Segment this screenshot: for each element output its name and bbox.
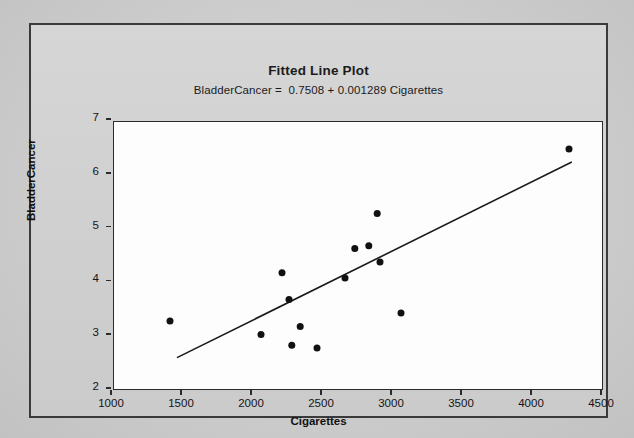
data-point xyxy=(377,258,384,265)
data-point xyxy=(374,210,381,217)
x-tick-label: 1000 xyxy=(87,397,135,409)
x-tick-label: 3500 xyxy=(437,397,485,409)
chart-title: Fitted Line Plot xyxy=(31,63,606,78)
x-tick-label: 4500 xyxy=(577,397,625,409)
data-point xyxy=(167,318,174,325)
data-point xyxy=(398,309,405,316)
chart-subtitle-equation: BladderCancer = 0.7508 + 0.001289 Cigare… xyxy=(31,84,606,96)
data-point xyxy=(258,331,265,338)
data-point xyxy=(288,342,295,349)
x-tick-label: 1500 xyxy=(157,397,205,409)
scatter-plot-canvas xyxy=(114,122,604,391)
y-tick-mark xyxy=(106,226,111,228)
x-tick-label: 3000 xyxy=(367,397,415,409)
y-tick-label: 4 xyxy=(77,272,99,284)
x-tick-label: 2500 xyxy=(297,397,345,409)
figure-outer-frame: the page reverse side show-through text … xyxy=(29,23,608,418)
data-point xyxy=(342,275,349,282)
data-point xyxy=(297,323,304,330)
x-tick-label: 2000 xyxy=(227,397,275,409)
data-point xyxy=(351,245,358,252)
x-tick-mark xyxy=(110,390,112,395)
y-tick-mark xyxy=(106,118,111,120)
data-point xyxy=(314,344,321,351)
data-point xyxy=(286,296,293,303)
data-point xyxy=(566,145,573,152)
y-tick-mark xyxy=(106,280,111,282)
y-tick-mark xyxy=(106,172,111,174)
regression-line xyxy=(177,162,572,358)
data-point xyxy=(365,242,372,249)
y-tick-mark xyxy=(106,387,111,389)
plot-panel xyxy=(113,121,603,390)
data-point xyxy=(279,269,286,276)
y-axis-label: BladderCancer xyxy=(25,139,37,221)
y-tick-label: 7 xyxy=(77,111,99,123)
y-tick-label: 3 xyxy=(77,326,99,338)
y-tick-mark xyxy=(106,333,111,335)
x-axis-label: Cigarettes xyxy=(31,415,606,427)
x-tick-label: 4000 xyxy=(507,397,555,409)
fitted-line xyxy=(177,162,572,358)
data-points-group xyxy=(167,145,573,351)
y-tick-label: 2 xyxy=(77,380,99,392)
y-tick-label: 5 xyxy=(77,219,99,231)
y-tick-label: 6 xyxy=(77,165,99,177)
